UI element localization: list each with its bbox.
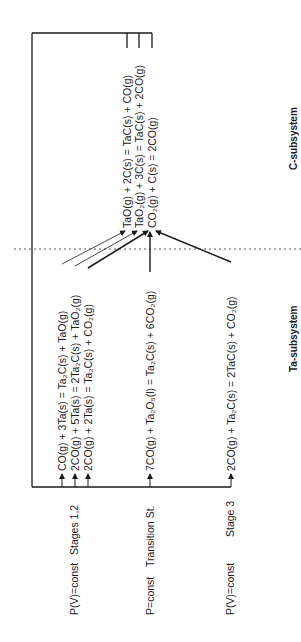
reaction-r2: 2CO(g) + 5Ta(s) = 2Ta₂C(s) + TaO₂(g) — [69, 295, 81, 471]
ta-subsystem-label: Ta-subsystem — [288, 305, 299, 372]
reaction-r4: 7CO(g) + Ta₂O₅(l) = Ta₂C(s) + 6CO₂(g) — [144, 291, 156, 471]
reaction-c2: TaO₂(g) + 3C(s) = TaC(s) + 2CO(g) — [133, 65, 145, 228]
reaction-r3: 2CO(g) + 2Ta(s) = Ta₂C(s) + CO₂(g) — [82, 304, 94, 471]
stage-condition-1: P(V)=const — [68, 563, 80, 615]
stage-name-3: Stage 3 — [224, 501, 236, 537]
stage-name-2: Transition St. — [144, 506, 156, 567]
stage-condition-2: P=const — [144, 577, 156, 615]
ta-reactions: CO(g) + 3Ta(s) = Ta₂C(s) + TaO(g) 2CO(g)… — [56, 291, 237, 471]
stage-name-1: Stages 1,2 — [68, 505, 80, 555]
reaction-c3: CO₂(g) + C(s) = 2CO(g) — [146, 117, 158, 228]
reaction-r5: 2CO(g) + Ta₂C(s) = 2TaC(s) + CO₂(g) — [225, 296, 237, 471]
arrow-icon — [62, 231, 125, 264]
reaction-c1: TaO(g) + 2C(s) = TaC(s) + CO(g) — [121, 75, 133, 228]
reaction-r1: CO(g) + 3Ta(s) = Ta₂C(s) + TaO(g) — [56, 311, 68, 471]
c-subsystem-label: C-subsystem — [288, 107, 299, 170]
c-reactions: TaO(g) + 2C(s) = TaC(s) + CO(g) TaO₂(g) … — [121, 65, 158, 228]
transfer-arrows — [62, 231, 231, 272]
stage-condition-3: P(V)=const — [224, 563, 236, 615]
stage-labels: P(V)=const Stages 1,2 P=const Transition… — [68, 501, 236, 615]
reaction-scheme-diagram: CO(g) + 3Ta(s) = Ta₂C(s) + TaO(g) 2CO(g)… — [0, 0, 301, 642]
arrow-icon — [156, 231, 231, 262]
input-arrows — [62, 474, 231, 487]
